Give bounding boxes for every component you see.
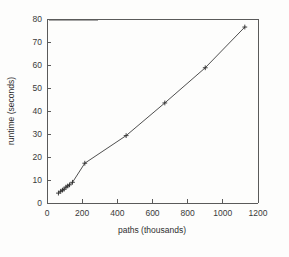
x-axis-title: paths (thousands) <box>118 225 186 235</box>
chart-plot-svg: 0 10 20 30 40 50 60 70 80 0 200 400 600 … <box>0 0 289 257</box>
y-tick-label-60: 60 <box>33 60 43 70</box>
x-tick-label-800: 800 <box>181 208 195 218</box>
y-tick-label-20: 20 <box>33 152 43 162</box>
x-tick-label-200: 200 <box>75 208 89 218</box>
y-tick-label-40: 40 <box>33 106 43 116</box>
y-tick-label-50: 50 <box>33 83 43 93</box>
y-axis-tick-labels: 0 10 20 30 40 50 60 70 80 <box>33 14 43 208</box>
x-tick-label-1000: 1000 <box>213 208 232 218</box>
y-tick-label-10: 10 <box>33 175 43 185</box>
y-tick-label-70: 70 <box>33 37 43 47</box>
y-axis-title: runtime (seconds) <box>6 77 16 145</box>
y-tick-label-80: 80 <box>33 14 43 24</box>
x-tick-label-0: 0 <box>45 208 50 218</box>
x-tick-label-400: 400 <box>110 208 124 218</box>
data-point-marker <box>82 161 87 166</box>
x-axis-tick-labels: 0 200 400 600 800 1000 1200 <box>45 208 268 218</box>
data-series-runtime <box>56 25 247 196</box>
x-axis-ticks <box>47 199 258 203</box>
series-line-runtime <box>58 27 244 193</box>
y-axis-ticks <box>47 19 51 203</box>
x-tick-label-1200: 1200 <box>249 208 268 218</box>
series-markers-runtime <box>56 25 247 196</box>
y-tick-label-30: 30 <box>33 129 43 139</box>
chart-figure: 0 10 20 30 40 50 60 70 80 0 200 400 600 … <box>0 0 289 257</box>
x-tick-label-600: 600 <box>145 208 159 218</box>
y-tick-label-0: 0 <box>37 198 42 208</box>
